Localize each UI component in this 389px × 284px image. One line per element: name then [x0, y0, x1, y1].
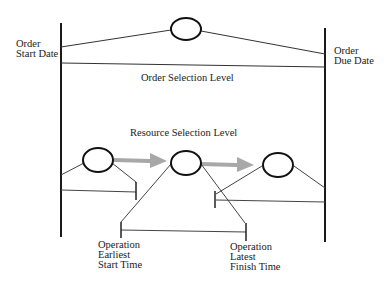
resource-selection-level-label: Resource Selection Level [130, 128, 237, 138]
operation-node-3 [263, 153, 293, 177]
op3-window-line [216, 200, 325, 202]
order-due-date-label: Order Due Date [334, 46, 374, 66]
arrow-icon [200, 157, 254, 172]
operation-latest-finish-label: Operation Latest Finish Time [230, 242, 281, 272]
label-line: Due Date [334, 56, 374, 66]
diagram-canvas [0, 0, 389, 284]
order-selection-level-label: Order Selection Level [141, 73, 234, 83]
operation-node-2 [171, 151, 201, 175]
op1-start-line [61, 163, 84, 175]
op1-window-line [61, 190, 136, 192]
order-start-date-label: Order Start Date [16, 39, 58, 59]
label-line: Start Time [98, 260, 142, 270]
op2-end-line [201, 164, 245, 223]
label-line: Finish Time [230, 262, 281, 272]
label-line: Start Date [16, 49, 58, 59]
op2-start-line [121, 164, 171, 222]
arrow-icon [114, 153, 167, 168]
order-node [171, 18, 201, 40]
order-start-to-node-line [61, 30, 171, 47]
op3-end-line [294, 166, 325, 188]
operation-earliest-start-label: Operation Earliest Start Time [98, 240, 142, 270]
op2-window-line [121, 230, 246, 232]
operation-node-1 [83, 148, 113, 172]
order-node-to-due-line [201, 31, 325, 54]
op1-end-line [112, 163, 136, 182]
order-window-line [61, 63, 325, 67]
